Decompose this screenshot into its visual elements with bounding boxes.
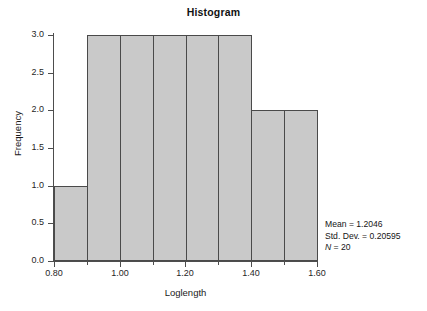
x-axis-tick-minor <box>284 262 285 265</box>
stat-n-value: = 20 <box>331 242 350 252</box>
x-axis-tick-minor <box>218 262 219 265</box>
stat-mean: Mean = 1.2046 <box>325 219 425 231</box>
histogram-bar <box>251 110 285 261</box>
histogram-bar <box>186 35 220 261</box>
x-axis-tick-major <box>185 262 186 267</box>
y-axis-tick <box>48 261 53 262</box>
plot-area <box>54 35 317 261</box>
x-axis-tick-major <box>317 262 318 267</box>
y-axis-tick-label: 1.5 <box>4 142 44 152</box>
x-axis-title: Loglength <box>54 287 317 298</box>
x-axis-tick-label: 1.40 <box>229 268 273 278</box>
y-axis-tick-label: 2.0 <box>4 104 44 114</box>
x-axis-tick-major <box>251 262 252 267</box>
y-axis-tick <box>48 35 53 36</box>
x-axis-tick-major <box>120 262 121 267</box>
x-axis-tick-label: 0.80 <box>32 268 76 278</box>
y-axis-title: Frequency <box>12 74 23 194</box>
y-axis-tick <box>48 223 53 224</box>
y-axis-tick <box>48 148 53 149</box>
stat-n: N = 20 <box>325 242 425 254</box>
x-axis-tick-minor <box>153 262 154 265</box>
histogram-bar <box>218 35 252 261</box>
histogram-bar <box>120 35 154 261</box>
histogram-bar <box>153 35 187 261</box>
y-axis-tick-label: 1.0 <box>4 180 44 190</box>
y-axis-tick <box>48 110 53 111</box>
x-axis-tick-major <box>54 262 55 267</box>
y-axis-tick <box>48 73 53 74</box>
histogram-bar <box>284 110 318 261</box>
histogram-bar <box>87 35 121 261</box>
y-axis-tick-label: 0.0 <box>4 255 44 265</box>
x-axis-tick-label: 1.60 <box>295 268 339 278</box>
statistics-annotation: Mean = 1.2046 Std. Dev. = 0.20595 N = 20 <box>325 219 425 254</box>
histogram-figure: Histogram 0.00.51.01.52.02.53.0 0.801.00… <box>0 0 427 311</box>
chart-title: Histogram <box>0 6 427 18</box>
y-axis-tick-label: 0.5 <box>4 217 44 227</box>
y-axis-tick <box>48 186 53 187</box>
stat-stddev: Std. Dev. = 0.20595 <box>325 231 425 243</box>
y-axis-tick-label: 2.5 <box>4 67 44 77</box>
x-axis-tick-label: 1.00 <box>98 268 142 278</box>
x-axis-tick-minor <box>87 262 88 265</box>
histogram-bar <box>54 186 88 261</box>
x-axis-tick-label: 1.20 <box>163 268 207 278</box>
y-axis-tick-label: 3.0 <box>4 29 44 39</box>
